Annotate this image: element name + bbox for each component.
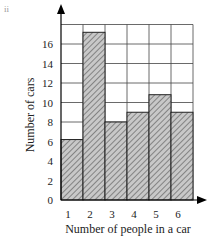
y-tick-label: 10 [42,97,54,109]
x-tick-label: 5 [153,208,159,220]
x-tick-label: 1 [65,208,71,220]
bar-5 [149,95,171,200]
y-tick-label: 12 [42,77,53,89]
x-tick-label: 2 [87,208,93,220]
y-tick-label: 6 [48,136,54,148]
y-tick-labels: 0246810121416 [42,38,54,206]
bar-chart: ii 0246810121416 123456 Number of people… [0,0,211,245]
y-tick-label: 4 [48,155,54,167]
x-tick-label: 6 [175,208,181,220]
y-tick-label: 8 [48,116,54,128]
y-axis-arrow-icon [57,4,65,14]
x-tick-label: 3 [109,208,115,220]
y-tick-label: 2 [48,175,54,187]
x-tick-labels: 123456 [65,208,181,220]
x-axis-label: Number of people in a car [65,222,191,236]
x-axis-arrow-icon [197,196,207,204]
y-tick-label: 16 [42,38,54,50]
bar-4 [127,112,149,200]
x-tick-label: 4 [131,208,137,220]
y-tick-label: 14 [42,58,54,70]
figure-label: ii [4,4,10,14]
bar-3 [105,122,127,200]
bar-1 [61,140,83,200]
y-axis-label: Number of cars [23,77,37,152]
y-tick-label: 0 [48,194,54,206]
bar-6 [171,112,193,200]
bar-2 [83,32,105,200]
